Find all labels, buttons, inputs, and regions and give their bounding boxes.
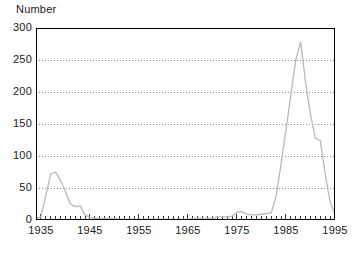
plot-svg	[36, 28, 335, 220]
y-axis-tick-labels: 050100150200250300	[0, 0, 32, 254]
x-tick-label: 1955	[126, 224, 151, 236]
x-tick-label: 1985	[273, 224, 298, 236]
x-tick-label: 1975	[224, 224, 249, 236]
y-tick-label: 50	[19, 181, 32, 193]
x-tick-label: 1995	[322, 224, 347, 236]
y-tick-label: 200	[13, 85, 32, 97]
y-tick-label: 150	[13, 117, 32, 129]
x-tick-label: 1935	[28, 224, 53, 236]
x-tick-label: 1965	[175, 224, 200, 236]
y-tick-label: 100	[13, 149, 32, 161]
y-tick-label: 250	[13, 53, 32, 65]
y-tick-label: 300	[13, 21, 32, 33]
gridlines	[36, 60, 335, 188]
axis-frame	[36, 28, 335, 220]
plot-area	[36, 28, 335, 220]
data-series-line	[36, 42, 335, 219]
x-axis-tick-labels: 1935194519551965197519851995	[0, 224, 356, 244]
x-tick-label: 1945	[77, 224, 102, 236]
chart-container: Number 050100150200250300 19351945195519…	[0, 0, 356, 254]
